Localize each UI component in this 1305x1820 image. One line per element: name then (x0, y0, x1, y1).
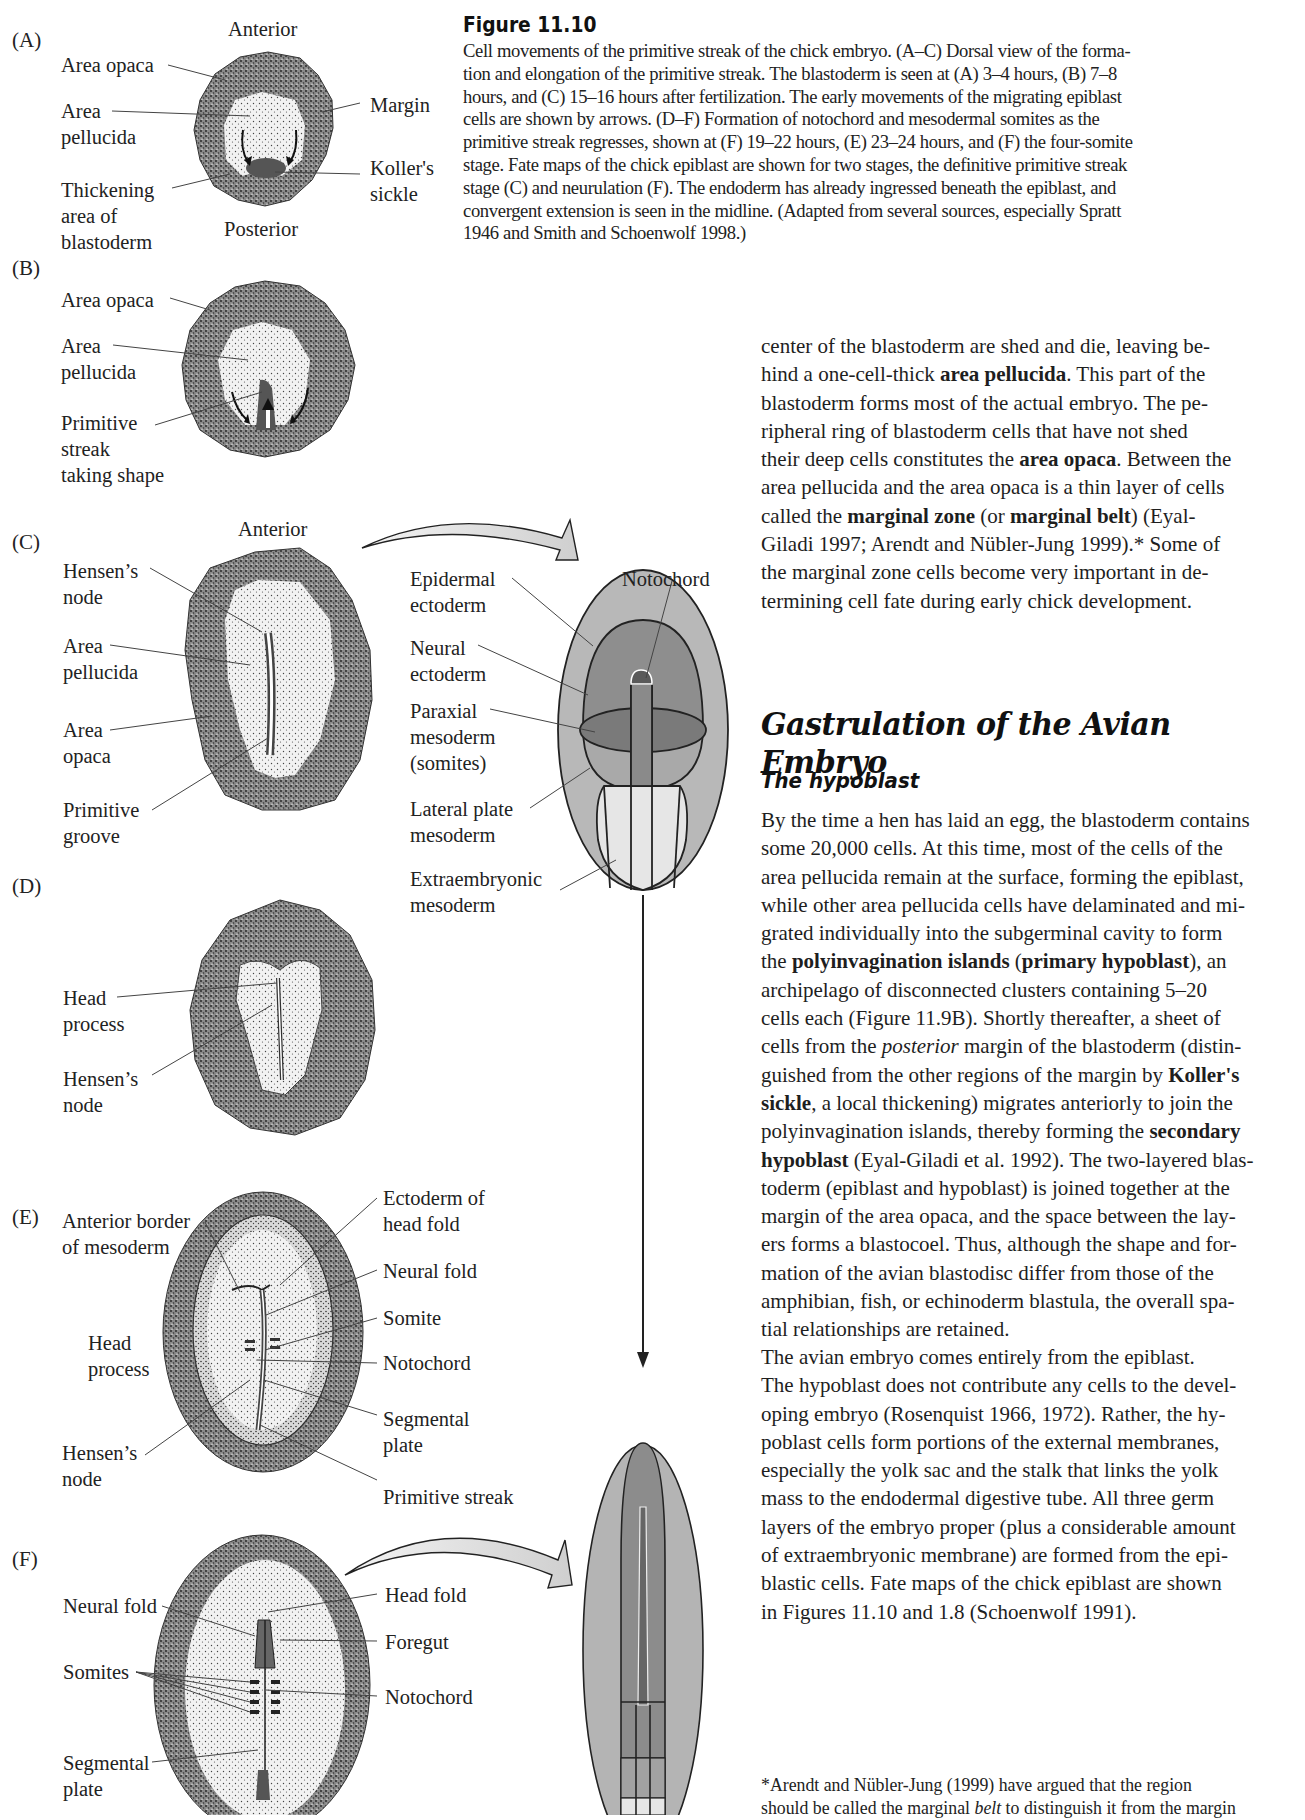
panel-b-embryo (182, 281, 355, 457)
panel-e-anterior-border-label: Anterior border of mesoderm (62, 1208, 190, 1260)
figure-caption: Cell movements of the primitive streak o… (463, 40, 1305, 245)
panel-d-embryo (190, 900, 375, 1135)
body-paragraph-2: By the time a hen has laid an egg, the b… (761, 806, 1305, 1344)
body-paragraph-1: center of the blastoderm are shed and di… (761, 332, 1305, 615)
panel-e-hensens-node-label: Hensen’s node (62, 1440, 137, 1492)
text-line: the marginal zone cells become very impo… (761, 558, 1305, 586)
text-line: blastoderm forms most of the actual embr… (761, 389, 1305, 417)
text-line: layers of the embryo proper (plus a cons… (761, 1513, 1305, 1541)
text-line: cells each (Figure 11.9B). Shortly there… (761, 1004, 1305, 1032)
bold-term: marginal belt (1010, 504, 1131, 528)
panel-letter-e: (E) (12, 1205, 39, 1230)
panel-d-hensens-node-label: Hensen’s node (63, 1066, 138, 1118)
panel-e-head-process-label: Head process (88, 1330, 149, 1382)
panel-f-notochord-label: Notochord (385, 1684, 473, 1710)
panel-letter-a: (A) (12, 28, 41, 53)
panel-letter-c: (C) (12, 530, 40, 555)
panel-f-neural-fold-label: Neural fold (63, 1593, 157, 1619)
panel-c-anterior-label: Anterior (238, 516, 307, 542)
text-line: polyinvagination islands, thereby formin… (761, 1117, 1305, 1145)
panel-letter-b: (B) (12, 256, 40, 281)
panel-a-kollers-sickle-label: Koller's sickle (370, 155, 434, 207)
transition-arrow-f (345, 1538, 572, 1588)
panel-c-area-opaca-label: Area opaca (63, 717, 111, 769)
text-line: called the marginal zone (or marginal be… (761, 502, 1305, 530)
panel-a-thickening-label: Thickening area of blastoderm (61, 177, 154, 255)
text-line: archipelago of disconnected clusters con… (761, 976, 1305, 1004)
caption-line: primitive streak regresses, shown at (F)… (463, 131, 1305, 154)
text-line: cells from the posterior margin of the b… (761, 1032, 1305, 1060)
bold-term: hypoblast (761, 1148, 849, 1172)
text-line: margin of the area opaca, and the space … (761, 1202, 1305, 1230)
panel-a-area-pellucida-label: Area pellucida (61, 98, 136, 150)
text-line: hypoblast (Eyal-Giladi et al. 1992). The… (761, 1146, 1305, 1174)
panel-f-somites-label: Somites (63, 1659, 129, 1685)
italic-term: posterior (882, 1034, 959, 1058)
subsection-heading: The hypoblast (761, 768, 919, 793)
transition-arrow-c (362, 520, 578, 560)
text-line: termining cell fate during early chick d… (761, 587, 1305, 615)
italic-term: belt (974, 1798, 1001, 1818)
panel-c-embryo (185, 548, 372, 810)
panel-e-embryo (163, 1192, 363, 1472)
text-line: area pellucida remain at the surface, fo… (761, 863, 1305, 891)
caption-line: convergent extension is seen in the midl… (463, 200, 1305, 223)
text-line: The avian embryo comes entirely from the… (761, 1343, 1305, 1371)
text-line: sickle, a local thickening) migrates ant… (761, 1089, 1305, 1117)
panel-e-somite-label: Somite (383, 1305, 441, 1331)
text-line: The hypoblast does not contribute any ce… (761, 1371, 1305, 1399)
text-line: toderm (epiblast and hypoblast) is joine… (761, 1174, 1305, 1202)
panel-a-margin-label: Margin (370, 92, 430, 118)
text-line: ripheral ring of blastoderm cells that h… (761, 417, 1305, 445)
panel-e-ectoderm-head-fold-label: Ectoderm of head fold (383, 1185, 485, 1237)
text-line: By the time a hen has laid an egg, the b… (761, 806, 1305, 834)
text-line: especially the yolk sac and the stalk th… (761, 1456, 1305, 1484)
text-line: of extraembryonic membrane) are formed f… (761, 1541, 1305, 1569)
bold-term: marginal zone (847, 504, 975, 528)
panel-f-segmental-plate-label: Segmental plate (63, 1750, 150, 1802)
text-line: hind a one-cell-thick area pellucida. Th… (761, 360, 1305, 388)
text-line: ers forms a blastocoel. Thus, although t… (761, 1230, 1305, 1258)
text-line: in Figures 11.10 and 1.8 (Schoenwolf 199… (761, 1598, 1305, 1626)
panel-a-embryo (194, 52, 333, 206)
panel-f-head-fold-label: Head fold (385, 1582, 466, 1608)
text-line: guished from the other regions of the ma… (761, 1061, 1305, 1089)
text-line: amphibian, fish, or echinoderm blastula,… (761, 1287, 1305, 1315)
text-line: tial relationships are retained. (761, 1315, 1305, 1343)
panel-a-anterior-label: Anterior (228, 16, 297, 42)
text-line: mation of the avian blastodisc differ fr… (761, 1259, 1305, 1287)
text-line: area pellucida and the area opaca is a t… (761, 473, 1305, 501)
text-line: oping embryo (Rosenquist 1966, 1972). Ra… (761, 1400, 1305, 1428)
figure-title: Figure 11.10 (463, 12, 596, 37)
panel-e-neural-fold-label: Neural fold (383, 1258, 477, 1284)
panel-b-primitive-streak-label: Primitive streak taking shape (61, 410, 164, 488)
caption-line: hours, and (C) 15–16 hours after fertili… (463, 86, 1305, 109)
footnote: *Arendt and Nübler-Jung (1999) have argu… (761, 1774, 1305, 1820)
text-line: blastic cells. Fate maps of the chick ep… (761, 1569, 1305, 1597)
caption-line: tion and elongation of the primitive str… (463, 63, 1305, 86)
text-line: some 20,000 cells. At this time, most of… (761, 834, 1305, 862)
text-line: their deep cells constitutes the area op… (761, 445, 1305, 473)
text-line: the polyinvagination islands (primary hy… (761, 947, 1305, 975)
panel-b-area-opaca-label: Area opaca (61, 287, 154, 313)
caption-line: Cell movements of the primitive streak o… (463, 40, 1305, 63)
caption-line: 1946 and Smith and Schoenwolf 1998.) (463, 222, 1305, 245)
fate-map-lateral-plate-label: Lateral plate mesoderm (410, 796, 513, 848)
bold-term: polyinvagination islands (792, 949, 1010, 973)
panel-a-area-opaca-label: Area opaca (61, 52, 154, 78)
text-line: grated individually into the subgerminal… (761, 919, 1305, 947)
panel-e-primitive-streak-label: Primitive streak (383, 1484, 513, 1510)
caption-line: cells are shown by arrows. (D–F) Formati… (463, 108, 1305, 131)
panel-d-head-process-label: Head process (63, 985, 124, 1037)
panel-letter-d: (D) (12, 874, 41, 899)
text-line: Giladi 1997; Arendt and Nübler-Jung 1999… (761, 530, 1305, 558)
body-paragraph-3: The avian embryo comes entirely from the… (761, 1343, 1305, 1626)
panel-a-posterior-label: Posterior (224, 216, 298, 242)
bold-term: secondary (1149, 1119, 1240, 1143)
text-line: while other area pellucida cells have de… (761, 891, 1305, 919)
text-line: mass to the endodermal digestive tube. A… (761, 1484, 1305, 1512)
panel-b-area-pellucida-label: Area pellucida (61, 333, 136, 385)
bold-term: sickle (761, 1091, 811, 1115)
fate-map-extraembryonic-label: Extraembryonic mesoderm (410, 866, 542, 918)
bold-term: Koller's (1168, 1063, 1239, 1087)
